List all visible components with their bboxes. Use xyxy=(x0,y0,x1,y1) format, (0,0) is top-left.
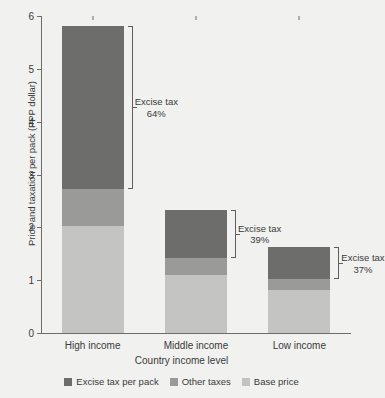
y-tick-label: 4 xyxy=(28,116,34,127)
bar-segment-base-price[interactable] xyxy=(62,226,124,333)
annotation-value: 64% xyxy=(135,107,178,119)
bracket-arm-bottom xyxy=(128,188,133,189)
excise-bracket-high-income xyxy=(127,26,133,189)
bar-segment-base-price[interactable] xyxy=(165,275,227,333)
bar-middle-income[interactable] xyxy=(165,210,227,333)
y-tick-mark xyxy=(37,122,41,123)
bracket-arm-bottom xyxy=(334,278,339,279)
x-tick-mark xyxy=(196,16,197,20)
y-axis-title: Price and taxation per pack (PPP dollar) xyxy=(26,39,37,289)
bar-high-income[interactable] xyxy=(62,26,124,333)
x-tick-mark xyxy=(92,16,93,20)
annotation-label: Excise tax xyxy=(238,222,281,234)
annotation-label: Excise tax xyxy=(135,96,178,108)
annotation-label: Excise tax xyxy=(341,252,384,264)
legend-label: Other taxes xyxy=(182,376,231,387)
legend-item-other-taxes[interactable]: Other taxes xyxy=(170,376,231,387)
x-tick-label-high-income: High income xyxy=(65,340,121,351)
y-tick-label: 0 xyxy=(28,328,34,339)
bar-segment-other-taxes[interactable] xyxy=(62,189,124,227)
y-tick-label: 3 xyxy=(28,169,34,180)
bar-segment-excise-tax-per-pack[interactable] xyxy=(268,247,330,279)
x-tick-label-low-income: Low income xyxy=(273,340,326,351)
legend-swatch-icon xyxy=(242,378,250,386)
y-tick-mark xyxy=(37,333,41,334)
excise-bracket-low-income xyxy=(333,247,339,279)
annotation-value: 37% xyxy=(341,263,384,275)
bracket-arm-bottom xyxy=(231,257,236,258)
annotation-value: 39% xyxy=(238,234,281,246)
excise-bracket-middle-income xyxy=(230,210,236,258)
x-tick-label-middle-income: Middle income xyxy=(164,340,228,351)
bracket-arm-top xyxy=(334,247,339,248)
y-tick-mark xyxy=(37,16,41,17)
excise-annotation-high-income: Excise tax64% xyxy=(135,96,178,119)
bar-low-income[interactable] xyxy=(268,247,330,333)
y-tick-label: 2 xyxy=(28,222,34,233)
y-tick-mark xyxy=(37,175,41,176)
legend-swatch-icon xyxy=(170,378,178,386)
bar-segment-base-price[interactable] xyxy=(268,290,330,333)
plot-area: 0123456 High incomeMiddle incomeLow inco… xyxy=(41,16,351,334)
bar-segment-other-taxes[interactable] xyxy=(268,279,330,290)
chart-legend: Excise tax per packOther taxesBase price xyxy=(0,376,363,387)
y-tick-label: 5 xyxy=(28,63,34,74)
y-axis-line xyxy=(41,16,42,334)
excise-annotation-low-income: Excise tax37% xyxy=(341,252,384,275)
bar-segment-excise-tax-per-pack[interactable] xyxy=(62,26,124,189)
x-tick-mark xyxy=(299,16,300,20)
bracket-arm-top xyxy=(128,26,133,27)
x-axis-line xyxy=(41,333,351,334)
legend-label: Excise tax per pack xyxy=(76,376,158,387)
y-tick-label: 6 xyxy=(28,11,34,22)
bar-segment-excise-tax-per-pack[interactable] xyxy=(165,210,227,258)
legend-item-base-price[interactable]: Base price xyxy=(242,376,299,387)
bracket-arm-top xyxy=(231,210,236,211)
y-tick-mark xyxy=(37,227,41,228)
y-tick-mark xyxy=(37,280,41,281)
legend-label: Base price xyxy=(254,376,299,387)
excise-annotation-middle-income: Excise tax39% xyxy=(238,222,281,245)
bar-segment-other-taxes[interactable] xyxy=(165,258,227,275)
legend-swatch-icon xyxy=(64,378,72,386)
y-tick-label: 1 xyxy=(28,275,34,286)
y-tick-mark xyxy=(37,69,41,70)
x-axis-title: Country income level xyxy=(0,355,363,366)
legend-item-excise-tax-per-pack[interactable]: Excise tax per pack xyxy=(64,376,158,387)
